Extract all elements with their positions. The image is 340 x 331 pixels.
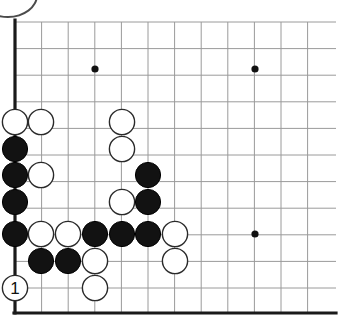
white-stone[interactable] — [82, 248, 107, 273]
white-stone[interactable] — [82, 275, 107, 300]
white-stone[interactable] — [109, 189, 134, 214]
black-stone[interactable] — [82, 221, 107, 246]
go-diagram-figure: 1 — [0, 0, 340, 331]
go-board[interactable]: 1 — [0, 0, 340, 331]
white-stone[interactable] — [28, 221, 53, 246]
white-stone[interactable] — [28, 162, 53, 187]
black-stone[interactable] — [2, 162, 27, 187]
white-stone[interactable] — [162, 221, 187, 246]
hoshi-point — [251, 230, 258, 237]
black-stone[interactable] — [2, 189, 27, 214]
white-stone[interactable] — [109, 109, 134, 134]
hoshi-point — [251, 65, 258, 72]
white-stone[interactable] — [2, 109, 27, 134]
white-stone[interactable] — [109, 136, 134, 161]
move-number-label: 1 — [10, 279, 19, 298]
hoshi-point — [91, 65, 98, 72]
white-stone[interactable] — [162, 248, 187, 273]
black-stone[interactable] — [55, 248, 80, 273]
black-stone[interactable] — [28, 248, 53, 273]
black-stone[interactable] — [109, 221, 134, 246]
black-stone[interactable] — [135, 162, 160, 187]
go-board-canvas[interactable]: 1 — [0, 0, 340, 331]
white-stone[interactable] — [55, 221, 80, 246]
black-stone[interactable] — [135, 189, 160, 214]
white-stone[interactable] — [28, 109, 53, 134]
move-markers-layer: 1 — [2, 275, 27, 300]
black-stone[interactable] — [135, 221, 160, 246]
black-stone[interactable] — [2, 221, 27, 246]
black-stone[interactable] — [2, 136, 27, 161]
